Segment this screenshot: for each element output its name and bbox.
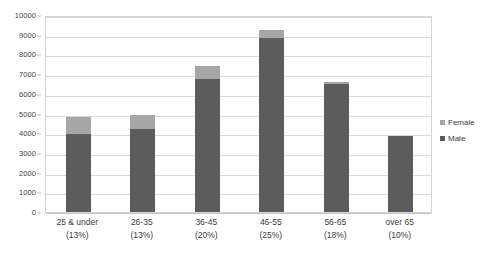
gridline-3000	[46, 155, 431, 156]
gridline-2000	[46, 175, 431, 176]
y-tick-label: 6000	[19, 91, 36, 99]
bar-group	[195, 15, 220, 212]
x-tick-label: 36-45(20%)	[174, 216, 239, 241]
chart-legend: FemaleMale	[440, 116, 498, 148]
gridline-9000	[46, 37, 431, 38]
y-tick-label: 3000	[19, 150, 36, 158]
y-tick-label: 9000	[19, 32, 36, 40]
y-tick-label: 2000	[19, 170, 36, 178]
y-tick-label: 4000	[19, 130, 36, 138]
y-tick-label: 5000	[19, 111, 36, 119]
legend-item[interactable]: Female	[440, 116, 498, 129]
bar-group	[66, 15, 91, 212]
x-tick-percent: (13%)	[45, 229, 110, 242]
stacked-bar-chart: 0100020003000400050006000700080009000100…	[0, 0, 500, 266]
y-tick-label: 1000	[19, 190, 36, 198]
y-tick-mark	[37, 173, 41, 174]
bar-segment-female	[130, 115, 155, 129]
legend-label: Male	[448, 135, 465, 143]
bar-segment-female	[195, 66, 220, 79]
gridline-8000	[46, 56, 431, 57]
x-tick-percent: (13%)	[110, 229, 175, 242]
x-tick-label: 56-65(18%)	[303, 216, 368, 241]
y-tick-label: 7000	[19, 71, 36, 79]
x-tick-percent: (20%)	[174, 229, 239, 242]
gridline-4000	[46, 135, 431, 136]
bar-group	[324, 15, 349, 212]
legend-label: Female	[448, 119, 475, 127]
x-tick-label: 25 & under(13%)	[45, 216, 110, 241]
bar-segment-male	[324, 84, 349, 212]
y-tick-label: 0	[32, 209, 36, 217]
x-axis: 25 & under(13%)26-35(13%)36-45(20%)46-55…	[45, 216, 432, 262]
gridline-6000	[46, 96, 431, 97]
bar-segment-female	[324, 82, 349, 84]
gridline-10000	[46, 17, 431, 18]
bar-group	[388, 15, 413, 212]
y-tick-mark	[37, 75, 41, 76]
bar-segment-female	[66, 117, 91, 134]
y-tick-label: 10000	[15, 12, 36, 20]
legend-item[interactable]: Male	[440, 132, 498, 145]
bar-segment-male	[66, 134, 91, 212]
gridline-0	[46, 213, 431, 214]
x-tick-label: over 65(10%)	[368, 216, 433, 241]
x-tick-percent: (25%)	[239, 229, 304, 242]
bar-group	[130, 15, 155, 212]
x-tick-label: 46-55(25%)	[239, 216, 304, 241]
y-tick-mark	[37, 94, 41, 95]
bar-segment-male	[388, 136, 413, 212]
x-tick-label: 26-35(13%)	[110, 216, 175, 241]
x-tick-category: 46-55	[260, 217, 282, 227]
y-tick-mark	[37, 193, 41, 194]
bar-group	[259, 15, 284, 212]
bar-segment-male	[130, 129, 155, 212]
y-tick-mark	[37, 134, 41, 135]
x-tick-percent: (18%)	[303, 229, 368, 242]
gridline-7000	[46, 76, 431, 77]
legend-swatch-icon	[440, 120, 445, 125]
bar-segment-female	[259, 30, 284, 38]
x-tick-category: over 65	[386, 217, 414, 227]
bar-segment-male	[195, 79, 220, 212]
x-tick-category: 36-45	[195, 217, 217, 227]
y-tick-mark	[37, 16, 41, 17]
x-tick-percent: (10%)	[368, 229, 433, 242]
plot-area	[45, 16, 432, 213]
y-tick-mark	[37, 114, 41, 115]
y-tick-label: 8000	[19, 52, 36, 60]
y-tick-mark	[37, 153, 41, 154]
bar-segment-male	[259, 38, 284, 212]
legend-swatch-icon	[440, 136, 445, 141]
y-tick-mark	[37, 55, 41, 56]
y-axis: 0100020003000400050006000700080009000100…	[0, 16, 41, 213]
x-tick-category: 26-35	[131, 217, 153, 227]
gridline-1000	[46, 194, 431, 195]
x-tick-category: 56-65	[324, 217, 346, 227]
x-tick-category: 25 & under	[56, 217, 98, 227]
y-tick-mark	[37, 213, 41, 214]
gridline-5000	[46, 116, 431, 117]
y-tick-mark	[37, 35, 41, 36]
